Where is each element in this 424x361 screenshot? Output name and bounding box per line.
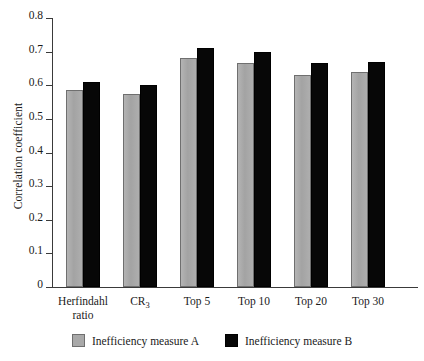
bar-series-b <box>140 85 157 287</box>
bar-series-b <box>311 63 328 287</box>
x-axis-line <box>52 287 418 288</box>
legend-entry: Inefficiency measure A <box>72 334 199 347</box>
legend-entry: Inefficiency measure B <box>225 334 352 347</box>
y-axis-tick-label: 0.5 <box>29 110 43 122</box>
bar-series-a <box>180 58 197 287</box>
y-axis-tick: 0.4 <box>46 153 52 154</box>
bar-group <box>294 18 328 287</box>
y-axis-tick: 0.1 <box>46 253 52 254</box>
bar-series-a <box>237 63 254 287</box>
bar-series-a <box>66 90 83 287</box>
legend-swatch-series-a <box>72 334 85 347</box>
bar-series-a <box>294 75 311 287</box>
bar-series-b <box>368 62 385 287</box>
bar-group <box>237 18 271 287</box>
legend-label: Inefficiency measure B <box>245 335 352 347</box>
y-axis-tick-label: 0.8 <box>29 9 43 21</box>
bar-series-b <box>83 82 100 287</box>
bar-group <box>351 18 385 287</box>
legend-label: Inefficiency measure A <box>92 335 199 347</box>
y-axis-tick-label: 0 <box>37 278 43 290</box>
y-axis-tick: 0.8 <box>46 18 52 19</box>
bar-group <box>123 18 157 287</box>
y-axis-tick-label: 0.2 <box>29 211 43 223</box>
y-axis-tick-label: 0.4 <box>29 144 43 156</box>
bar-chart-figure: Correlation coefficient 0.80.70.60.50.40… <box>0 0 424 361</box>
y-axis-tick: 0 <box>46 287 52 288</box>
y-axis-tick-label: 0.3 <box>29 177 43 189</box>
x-axis-category-label: Top 30 <box>323 295 413 309</box>
y-axis-line <box>52 18 53 287</box>
bar-series-b <box>197 48 214 287</box>
y-axis-tick: 0.3 <box>46 186 52 187</box>
plot-area: 0.80.70.60.50.40.30.20.10 <box>52 18 418 287</box>
bar-series-a <box>123 94 140 287</box>
y-axis-tick: 0.2 <box>46 220 52 221</box>
y-axis-tick: 0.6 <box>46 85 52 86</box>
legend-swatch-series-b <box>225 334 238 347</box>
y-axis-tick: 0.5 <box>46 119 52 120</box>
bar-series-b <box>254 52 271 287</box>
bar-series-a <box>351 72 368 287</box>
y-axis-tick-label: 0.6 <box>29 76 43 88</box>
y-axis-tick-label: 0.7 <box>29 43 43 55</box>
y-axis-tick: 0.7 <box>46 52 52 53</box>
y-axis-tick-label: 0.1 <box>29 244 43 256</box>
chart-legend: Inefficiency measure AInefficiency measu… <box>0 334 424 347</box>
bar-group <box>180 18 214 287</box>
y-axis-title: Correlation coefficient <box>12 56 24 256</box>
bar-group <box>66 18 100 287</box>
